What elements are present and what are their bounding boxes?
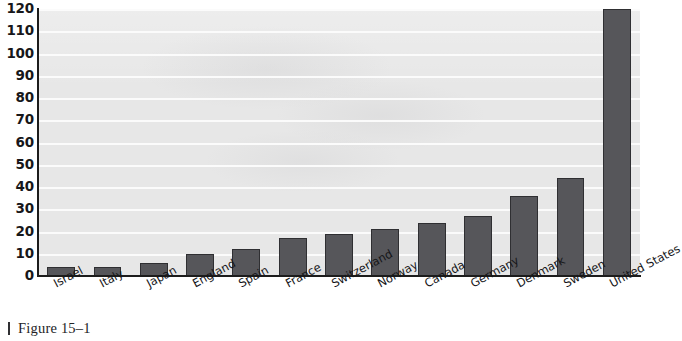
y-tick-label: 0 (0, 269, 34, 283)
plot-area (38, 9, 640, 276)
bar[interactable] (603, 9, 631, 276)
y-axis: 0102030405060708090100110120 (0, 0, 34, 300)
bar-chart: 0102030405060708090100110120 IsraelItaly… (0, 0, 650, 300)
x-axis-labels: IsraelItalyJapanEnglandSpainFranceSwitze… (38, 278, 640, 326)
y-tick-label: 90 (0, 69, 34, 83)
y-tick-label: 10 (0, 247, 34, 261)
figure-caption: Figure 15–1 (8, 320, 91, 337)
y-tick-label: 30 (0, 203, 34, 217)
y-tick-label: 100 (0, 47, 34, 61)
y-tick-label: 80 (0, 91, 34, 105)
y-tick-label: 20 (0, 225, 34, 239)
y-tick-label: 40 (0, 180, 34, 194)
y-tick-label: 50 (0, 158, 34, 172)
y-tick-label: 110 (0, 25, 34, 39)
y-tick-label: 120 (0, 2, 34, 16)
y-tick-label: 70 (0, 114, 34, 128)
bars-layer (38, 9, 640, 276)
caption-text: Figure 15–1 (18, 320, 91, 337)
caption-rule-icon (8, 322, 10, 335)
y-tick-label: 60 (0, 136, 34, 150)
y-axis-line (37, 8, 39, 277)
